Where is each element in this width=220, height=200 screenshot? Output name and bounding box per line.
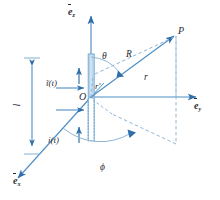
angle-arc-theta: [91, 57, 124, 78]
unit-vector-ey-glyph: e: [194, 100, 198, 111]
unit-vector-ey-subscript: y: [198, 105, 201, 112]
length-label-l: l: [12, 104, 22, 107]
unit-vector-ez-subscript: z: [72, 11, 74, 18]
axis-label-ez: ez: [68, 7, 75, 18]
figure-canvas: [0, 0, 220, 200]
field-point-label: P: [178, 26, 184, 36]
angle-label-theta: θ: [102, 52, 107, 62]
unit-vector-ex-subscript: x: [17, 180, 20, 187]
radius-vector-r: [91, 36, 174, 97]
angle-arc-phi: [63, 128, 136, 142]
length-dimension-l: [24, 58, 40, 154]
unit-vector-ez-glyph: e: [68, 6, 72, 17]
axis-label-ey: ey: [194, 101, 201, 112]
source-distance-label-r-prime: r′: [95, 82, 100, 91]
origin-label: O: [79, 92, 86, 102]
antenna-coordinate-figure: ez ey ex O P θ ϕ R r r′ l ĩ(t) i(t): [0, 0, 220, 200]
axis-label-ex: ex: [13, 176, 21, 187]
distance-label-r: r: [144, 73, 148, 83]
distance-label-R: R: [126, 50, 132, 60]
current-label-upper: ĩ(t): [46, 79, 57, 88]
current-label-lower: i(t): [48, 136, 59, 145]
unit-vector-ex-glyph: e: [13, 175, 17, 186]
angle-label-phi: ϕ: [100, 163, 105, 173]
